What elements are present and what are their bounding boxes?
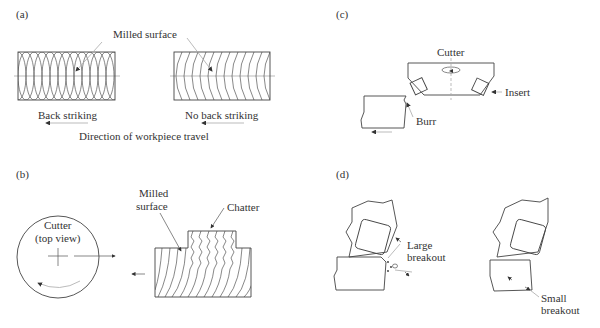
workpiece-c xyxy=(361,96,406,128)
insert-small xyxy=(510,219,547,256)
cutter-label: Cutter xyxy=(437,46,465,58)
panel-d-label: (d) xyxy=(336,168,349,181)
small-breakout-leader xyxy=(530,290,539,297)
chatter-label: Chatter xyxy=(227,201,260,213)
panel-a-label: (a) xyxy=(16,8,29,21)
panel-a: (a) xyxy=(10,8,278,142)
no-back-striking-surface xyxy=(170,52,278,100)
tool-holder-right xyxy=(493,198,548,257)
milled-surface-label: Milled surface xyxy=(113,28,177,40)
insert-left xyxy=(410,78,427,95)
insert-large xyxy=(355,219,392,256)
milling-diagram: (a) xyxy=(0,0,600,328)
large-breakout-leader-1 xyxy=(388,244,400,258)
panel-c-label: (c) xyxy=(336,8,349,21)
panel-c: (c) Cutter Insert Burr xyxy=(336,8,530,132)
milled-surface-leader-right xyxy=(187,38,212,71)
panel-b: (b) Cutter (top view) xyxy=(16,168,260,298)
large-breakout-leader-2 xyxy=(395,270,412,272)
milled-label-line1: Milled xyxy=(139,187,169,199)
chatter-leader xyxy=(211,208,224,228)
cutter-label-line2: (top view) xyxy=(35,232,81,245)
direction-label: Direction of workpiece travel xyxy=(79,130,209,142)
milled-surface-leader xyxy=(160,213,181,251)
burr-label: Burr xyxy=(416,115,437,127)
large-label-line2: breakout xyxy=(407,251,445,263)
panel-b-label: (b) xyxy=(16,168,29,181)
milled-label-line2: surface xyxy=(136,200,168,212)
back-striking-surface xyxy=(10,52,122,100)
small-label-line1: Small xyxy=(541,292,567,304)
cutter-label-line1: Cutter xyxy=(44,219,72,231)
panel-d: (d) Large breakout Small breakout xyxy=(334,168,579,316)
workpiece-large-breakout xyxy=(334,257,386,290)
no-back-striking-label: No back striking xyxy=(185,109,259,121)
back-striking-label: Back striking xyxy=(38,109,97,121)
workpiece-small-breakout xyxy=(490,260,532,291)
tool-holder-left xyxy=(346,200,397,257)
milled-surface-leader-left xyxy=(76,42,102,71)
rotation-arrow xyxy=(38,281,80,288)
insert-label: Insert xyxy=(505,86,530,98)
small-label-line2: breakout xyxy=(541,304,579,316)
large-label-line1: Large xyxy=(407,239,433,251)
chatter-workpiece xyxy=(155,231,258,297)
burr-leader xyxy=(407,103,413,117)
